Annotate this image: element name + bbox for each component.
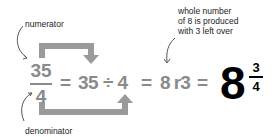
numerator-label: numerator <box>25 19 64 29</box>
fraction-numerator: 35 <box>30 60 51 82</box>
fraction-denominator: 4 <box>36 86 47 108</box>
denominator-label: denominator <box>25 126 72 136</box>
remainder-note: whole number of 8 is produced with 3 lef… <box>178 6 238 36</box>
equals-sign-2: = <box>141 72 152 94</box>
quotient-remainder: 8 r3 <box>160 72 190 94</box>
mixed-number-whole: 8 <box>220 60 246 106</box>
numerator-pointer-arrow <box>17 26 27 58</box>
mixed-numerator: 3 <box>252 60 259 75</box>
numerator-move-arrow <box>42 46 91 58</box>
improper-fraction: 35 4 <box>30 60 52 108</box>
equals-sign-1: = <box>60 72 71 94</box>
division-expression: 35 ÷ 4 <box>78 72 128 94</box>
equals-sign-3: = <box>197 72 208 94</box>
fraction-bar <box>30 83 52 85</box>
mixed-number-fraction: 3 4 <box>249 60 263 94</box>
remainder-pointer-arrow <box>167 38 175 62</box>
mixed-denominator: 4 <box>252 79 259 94</box>
mixed-fraction-bar <box>249 76 263 78</box>
denominator-move-arrow <box>42 102 125 112</box>
